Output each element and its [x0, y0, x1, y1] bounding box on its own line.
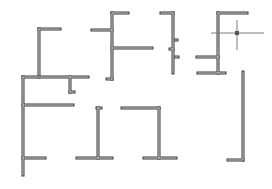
wall-segment-fill: [161, 13, 174, 14]
wall-segment-fill: [170, 49, 174, 50]
wall-segment-fill: [70, 77, 71, 93]
wall-segment-fill: [112, 13, 113, 80]
wall-segment-fill: [39, 29, 61, 30]
wall-segment-fill: [97, 108, 102, 109]
shape-e-large: [22, 76, 90, 177]
shape-t-bottom-left: [76, 107, 114, 160]
wall-segment-fill: [23, 158, 46, 159]
wall-segment-fill: [70, 92, 75, 93]
wall-segment-fill: [77, 158, 113, 159]
shape-f-right: [196, 12, 249, 75]
wall-segment-fill: [92, 30, 113, 31]
wall-segment-fill: [98, 108, 99, 159]
shape-t-bottom-middle: [121, 107, 178, 160]
wall-segment-fill: [23, 105, 74, 106]
wall-segment-fill: [122, 108, 160, 109]
wall-segment-fill: [23, 77, 24, 176]
wall-profiles-drawing: [0, 0, 272, 189]
wall-segment-fill: [175, 57, 179, 58]
wall-segment-fill: [198, 73, 226, 74]
wall-segment-fill: [144, 158, 177, 159]
wall-segment-fill: [173, 13, 174, 74]
shape-f-top-middle: [91, 12, 154, 81]
wall-segment-fill: [228, 160, 244, 161]
shape-gamma-top-left: [38, 28, 62, 79]
wall-segment-fill: [218, 13, 219, 74]
wall-segment-fill: [39, 29, 40, 78]
wall-segment-fill: [243, 72, 244, 161]
shape-l-bottom-right: [227, 71, 245, 162]
wall-segment-fill: [112, 13, 129, 14]
wall-segment-fill: [23, 77, 89, 78]
wall-segment-fill: [159, 108, 160, 159]
wall-segment-fill: [112, 48, 153, 49]
shape-gamma-narrow: [160, 12, 180, 75]
wall-segment-fill: [218, 13, 248, 14]
wall-segment-fill: [197, 57, 219, 58]
wall-segment-fill: [107, 79, 113, 80]
diagram-canvas: [0, 0, 272, 189]
wall-segment-fill: [175, 40, 178, 41]
